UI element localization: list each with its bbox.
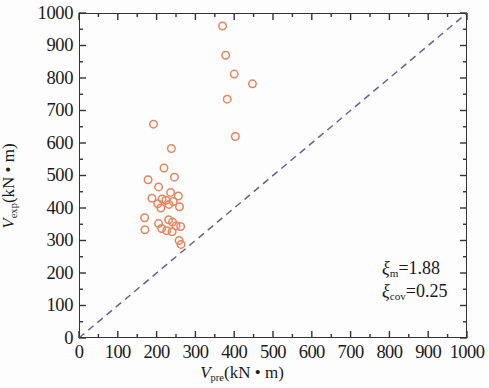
data-point bbox=[176, 203, 184, 211]
data-point bbox=[150, 120, 158, 128]
data-points bbox=[141, 22, 256, 248]
data-point bbox=[249, 80, 257, 88]
y-axis-title-symbol: V bbox=[0, 218, 18, 228]
data-point bbox=[141, 214, 149, 222]
x-tick-label: 1000 bbox=[441, 343, 489, 362]
data-point bbox=[141, 226, 149, 234]
data-point bbox=[223, 95, 231, 103]
xi-value-cov: =0.25 bbox=[406, 281, 448, 301]
y-tick-label: 700 bbox=[46, 101, 73, 120]
y-tick-label: 200 bbox=[46, 264, 73, 283]
xi-symbol-cov: ξ bbox=[382, 281, 390, 301]
x-axis-title-subscript: pre bbox=[211, 372, 224, 383]
xi-subscript-cov: cov bbox=[390, 290, 406, 302]
data-point bbox=[222, 52, 230, 60]
y-tick-label: 100 bbox=[46, 296, 73, 315]
y-tick-label: 900 bbox=[46, 36, 73, 55]
y-tick-label: 400 bbox=[46, 199, 73, 218]
x-axis-title-symbol: V bbox=[200, 363, 210, 382]
y-tick-label: 300 bbox=[46, 231, 73, 250]
y-tick-label: 500 bbox=[46, 166, 73, 185]
data-point bbox=[171, 173, 179, 181]
annotation-xi-mean: ξm=1.88 bbox=[382, 258, 447, 281]
data-point bbox=[155, 183, 163, 191]
y-tick-label: 600 bbox=[46, 134, 73, 153]
data-point bbox=[160, 164, 168, 172]
xi-symbol-mean: ξ bbox=[382, 258, 390, 278]
data-point bbox=[232, 133, 240, 141]
data-point bbox=[168, 145, 176, 153]
data-point bbox=[177, 223, 185, 231]
data-point bbox=[230, 70, 238, 78]
y-axis-title-units: (kN • m) bbox=[0, 143, 18, 203]
data-point bbox=[168, 228, 176, 236]
annotation-xi-cov: ξcov=0.25 bbox=[382, 281, 447, 304]
y-axis-title: Vexp(kN • m) bbox=[0, 101, 19, 271]
data-point bbox=[144, 176, 152, 184]
y-tick-label: 800 bbox=[46, 69, 73, 88]
data-point bbox=[219, 22, 227, 30]
data-point bbox=[167, 189, 175, 197]
y-tick-label: 1000 bbox=[38, 4, 73, 23]
x-axis-title: Vpre(kN • m) bbox=[0, 363, 484, 383]
xi-value-mean: =1.88 bbox=[398, 258, 440, 278]
x-axis-title-units: (kN • m) bbox=[224, 363, 284, 382]
y-axis-title-subscript: exp bbox=[8, 203, 19, 218]
statistics-annotation: ξm=1.88 ξcov=0.25 bbox=[382, 258, 447, 303]
